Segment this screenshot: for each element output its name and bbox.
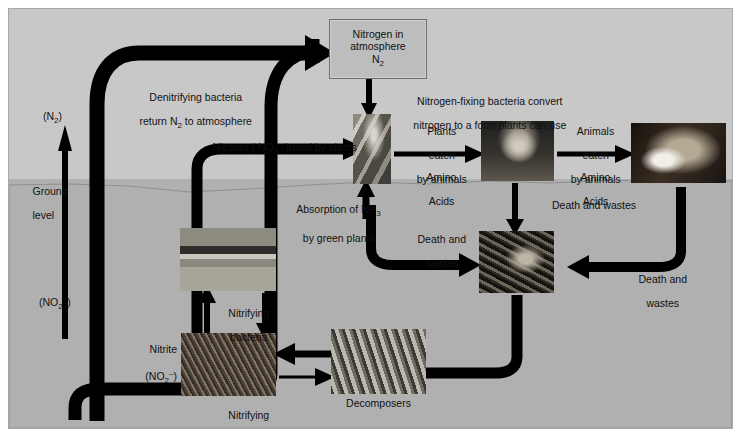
photo-dead-animal <box>479 231 554 293</box>
atmosphere-box-line3: N2 <box>350 53 405 71</box>
ground-level-label: Ground level <box>15 173 65 233</box>
diagram-frame: Nitrogen in atmosphere N2 Ground level (… <box>8 8 733 429</box>
n2-gas-label: (N2) <box>43 110 62 127</box>
nitrifying-bacteria-mid-label: Nitrifying bacteria <box>207 295 273 355</box>
nitrite-formula: (NO2–) <box>145 370 177 382</box>
nitrifying-bacteria-bottom-label: Nitrifying bacteria <box>207 397 273 429</box>
atmosphere-box-line2: atmosphere <box>350 40 405 53</box>
nh3-absorption-line1: Absorption of NH3 <box>296 203 380 215</box>
nitrogen-cycle-figure: Nitrogen in atmosphere N2 Ground level (… <box>0 0 741 438</box>
photo-fox <box>631 123 726 183</box>
photo-decomposers <box>331 329 426 394</box>
nitrite-label: Nitrite (NO2–) <box>121 331 177 399</box>
atmosphere-box: Nitrogen in atmosphere N2 <box>329 19 427 79</box>
death-wastes-left-label: Death and wastes <box>397 221 469 281</box>
atmosphere-box-line1: Nitrogen in <box>350 28 405 41</box>
no2-gas-label: (NO2–) <box>39 293 71 313</box>
decomposers-label: Decomposers <box>331 397 426 409</box>
death-wastes-right-label: Death and wastes <box>617 261 691 321</box>
nitrates-used-label: Nitrates ( NO3– )used by plants <box>195 126 357 170</box>
death-wastes-top-label: Death and wastes <box>529 199 659 211</box>
photo-nitrate-soil <box>180 228 276 291</box>
amino-acids-label-1: Amino Acids <box>399 159 467 219</box>
nh3-absorption-label: Absorption of NH3 by green plants <box>275 191 385 256</box>
